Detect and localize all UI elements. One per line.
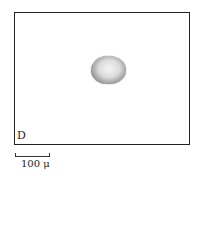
specimen-blob <box>91 56 126 84</box>
scale-bar <box>15 153 50 157</box>
panel-label: D <box>17 130 26 141</box>
scale-bar-label: 100 μ <box>21 159 50 169</box>
